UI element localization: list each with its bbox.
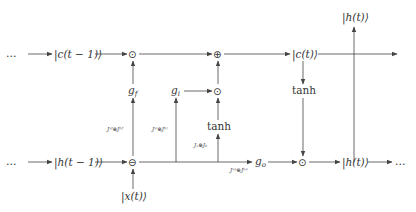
ellipsis-bottom-right: … (395, 155, 406, 167)
h-t-top-node: |h(t)⟩ (342, 11, 369, 25)
ellipsis-bottom-left: … (6, 155, 17, 167)
cell-add-op: ⊕ (213, 49, 221, 60)
x-t-node: |x(t)⟩ (121, 190, 147, 204)
h-t-bottom-node: |h(t)⟩ (342, 156, 369, 170)
output-mult-op: ⊙ (298, 157, 306, 168)
concat-op: ⊖ (128, 157, 136, 168)
forget-weight-label: Jˣᶠ⊕Jʰᶠ (106, 126, 124, 133)
h-prev-node: |h(t − 1)⟩ (54, 156, 103, 170)
tanh-cell: tanh (292, 84, 316, 96)
output-weight-label: Jˣᵒ⊕Jʰᵒ (229, 167, 248, 174)
input-weight-label: Jˣⁱ⊕Jʰⁱ (151, 126, 168, 133)
ellipsis-top-left: … (6, 47, 17, 59)
lstm-diagram: … |c(t − 1)⟩ ⊙ ⊕ |c(t)⟩ |h(t)⟩ gf gi ⊙ t… (0, 0, 416, 212)
g-f-gate: gf (128, 84, 139, 98)
c-t-node: |c(t)⟩ (292, 48, 318, 62)
input-mult-op: ⊙ (213, 86, 221, 97)
g-o-gate: go (255, 155, 266, 169)
c-prev-node: |c(t − 1)⟩ (54, 48, 102, 62)
forget-mult-op: ⊙ (128, 49, 136, 60)
tanh-candidate: tanh (207, 120, 231, 132)
candidate-weight-label: Jₓ⊕Jₕ (193, 142, 207, 149)
g-i-gate: gi (171, 84, 180, 98)
